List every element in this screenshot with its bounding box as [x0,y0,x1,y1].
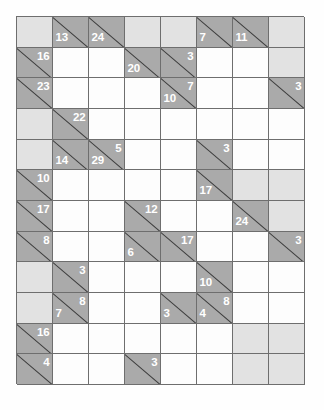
entry-cell[interactable] [197,324,233,355]
across-sum: 16 [37,51,49,63]
down-sum: 7 [200,32,206,44]
clue-cell: 7 [197,17,233,48]
entry-cell[interactable] [269,262,305,293]
blank-cell [269,201,305,232]
entry-cell[interactable] [197,232,233,263]
entry-cell[interactable] [269,293,305,324]
across-sum: 22 [73,112,85,124]
entry-cell[interactable] [161,354,197,385]
across-sum: 17 [181,235,193,247]
across-sum: 10 [37,173,49,185]
blank-cell [269,324,305,355]
blank-cell [233,324,269,355]
entry-cell[interactable] [161,170,197,201]
kakuro-grid[interactable]: 1324711162032371032214529310171712248617… [16,16,304,384]
entry-cell[interactable] [89,324,125,355]
entry-cell[interactable] [233,293,269,324]
entry-cell[interactable] [125,109,161,140]
down-sum: 29 [92,155,104,167]
clue-cell: 24 [233,201,269,232]
across-sum: 3 [223,143,229,155]
entry-cell[interactable] [125,293,161,324]
entry-cell[interactable] [53,201,89,232]
entry-cell[interactable] [53,78,89,109]
across-sum: 4 [43,357,49,369]
blank-cell [161,17,197,48]
down-sum: 4 [200,308,206,320]
entry-cell[interactable] [89,170,125,201]
clue-cell: 17 [161,232,197,263]
clue-cell: 16 [17,324,53,355]
across-sum: 5 [115,143,121,155]
down-sum: 10 [200,277,212,289]
entry-cell[interactable] [161,324,197,355]
entry-cell[interactable] [89,262,125,293]
clue-cell: 3 [161,293,197,324]
entry-cell[interactable] [197,48,233,79]
blank-cell [269,354,305,385]
entry-cell[interactable] [233,78,269,109]
entry-cell[interactable] [161,201,197,232]
entry-cell[interactable] [197,78,233,109]
entry-cell[interactable] [161,262,197,293]
across-sum: 12 [145,204,157,216]
clue-cell: 3 [125,354,161,385]
entry-cell[interactable] [197,109,233,140]
down-sum: 6 [128,247,134,259]
clue-cell: 17 [197,170,233,201]
clue-cell: 529 [89,140,125,171]
across-sum: 3 [295,81,301,93]
down-sum: 17 [200,185,212,197]
clue-cell: 710 [161,78,197,109]
entry-cell[interactable] [161,109,197,140]
entry-cell[interactable] [269,109,305,140]
clue-cell: 3 [197,140,233,171]
entry-cell[interactable] [125,262,161,293]
blank-cell [17,109,53,140]
clue-cell: 22 [53,109,89,140]
clue-cell: 12 [125,201,161,232]
entry-cell[interactable] [161,140,197,171]
entry-cell[interactable] [125,170,161,201]
entry-cell[interactable] [233,109,269,140]
entry-cell[interactable] [89,78,125,109]
blank-cell [17,140,53,171]
entry-cell[interactable] [53,354,89,385]
entry-cell[interactable] [197,201,233,232]
down-sum: 24 [92,32,104,44]
clue-cell: 3 [269,78,305,109]
entry-cell[interactable] [197,354,233,385]
entry-cell[interactable] [233,48,269,79]
entry-cell[interactable] [269,140,305,171]
entry-cell[interactable] [233,140,269,171]
entry-cell[interactable] [89,109,125,140]
down-sum: 10 [164,93,176,105]
entry-cell[interactable] [53,232,89,263]
entry-cell[interactable] [89,354,125,385]
blank-cell [17,262,53,293]
across-sum: 3 [151,357,157,369]
down-sum: 13 [56,32,68,44]
clue-cell: 6 [125,232,161,263]
clue-cell: 23 [17,78,53,109]
across-sum: 3 [187,51,193,63]
entry-cell[interactable] [89,48,125,79]
clue-cell: 3 [269,232,305,263]
entry-cell[interactable] [89,293,125,324]
entry-cell[interactable] [89,201,125,232]
entry-cell[interactable] [125,78,161,109]
entry-cell[interactable] [53,324,89,355]
entry-cell[interactable] [233,262,269,293]
entry-cell[interactable] [125,140,161,171]
kakuro-puzzle: 1324711162032371032214529310171712248617… [0,0,324,410]
clue-cell: 84 [197,293,233,324]
entry-cell[interactable] [89,232,125,263]
entry-cell[interactable] [125,324,161,355]
entry-cell[interactable] [53,48,89,79]
clue-cell: 8 [17,232,53,263]
clue-cell: 4 [17,354,53,385]
across-sum: 8 [79,296,85,308]
across-sum: 8 [223,296,229,308]
entry-cell[interactable] [53,170,89,201]
entry-cell[interactable] [233,232,269,263]
